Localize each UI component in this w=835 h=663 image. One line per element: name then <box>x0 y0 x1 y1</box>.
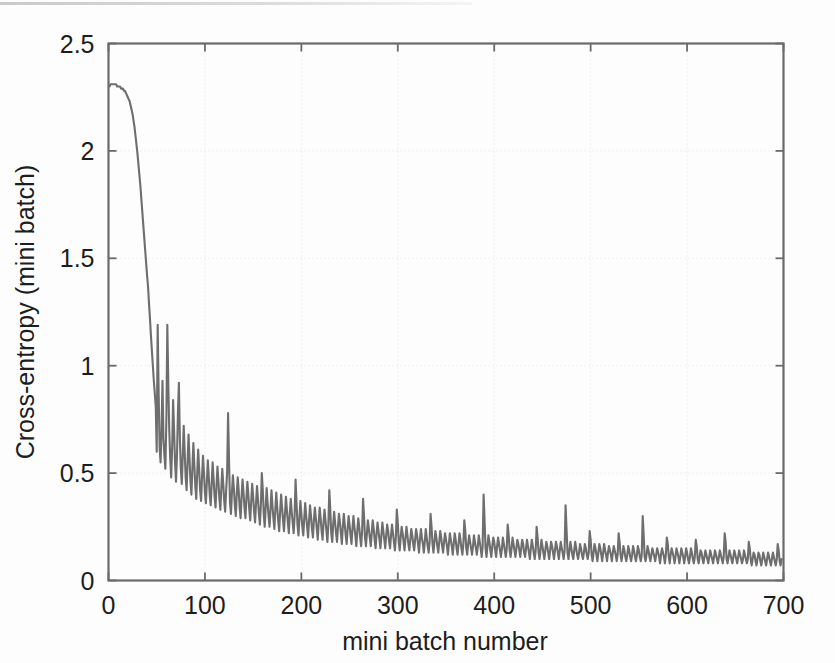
y-axis-tick-labels: 00.511.522.5 <box>60 30 95 595</box>
y-axis-title: Cross-entropy (mini batch) <box>11 165 39 460</box>
y-tick-label: 1 <box>81 352 95 380</box>
y-tick-label: 0 <box>81 567 95 595</box>
x-tick-label: 600 <box>666 591 708 619</box>
x-axis-title: mini batch number <box>342 627 548 655</box>
x-tick-label: 400 <box>473 591 515 619</box>
cross-entropy-line-chart: 0100200300400500600700 00.511.522.5 mini… <box>0 0 835 663</box>
y-tick-label: 1.5 <box>60 244 95 272</box>
x-tick-label: 500 <box>570 591 612 619</box>
data-series-group <box>109 84 781 565</box>
x-tick-label: 100 <box>184 591 226 619</box>
x-tick-label: 200 <box>280 591 322 619</box>
chart-plot-area: 0100200300400500600700 00.511.522.5 mini… <box>0 0 835 663</box>
x-tick-label: 300 <box>377 591 419 619</box>
figure-container: 0100200300400500600700 00.511.522.5 mini… <box>0 0 835 663</box>
y-tick-label: 0.5 <box>60 459 95 487</box>
x-tick-label: 0 <box>102 591 116 619</box>
series-line-cross-entropy <box>109 84 781 565</box>
x-axis-tick-labels: 0100200300400500600700 <box>102 591 805 619</box>
y-tick-label: 2.5 <box>60 30 95 58</box>
x-tick-label: 700 <box>763 591 805 619</box>
y-tick-label: 2 <box>81 137 95 165</box>
